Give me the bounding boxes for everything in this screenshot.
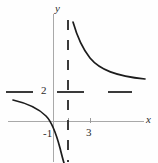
x-tick-label-negative-1: -1 [43,128,52,139]
graph-figure: y x 2 3 -1 [0,0,158,163]
y-tick-label-2: 2 [41,85,47,96]
y-axis-label: y [55,3,60,14]
left-branch-curve [13,100,64,163]
curve-container [0,0,158,163]
right-branch-curve [73,22,145,79]
x-axis-label: x [146,114,151,125]
x-tick-label-3: 3 [86,127,92,138]
